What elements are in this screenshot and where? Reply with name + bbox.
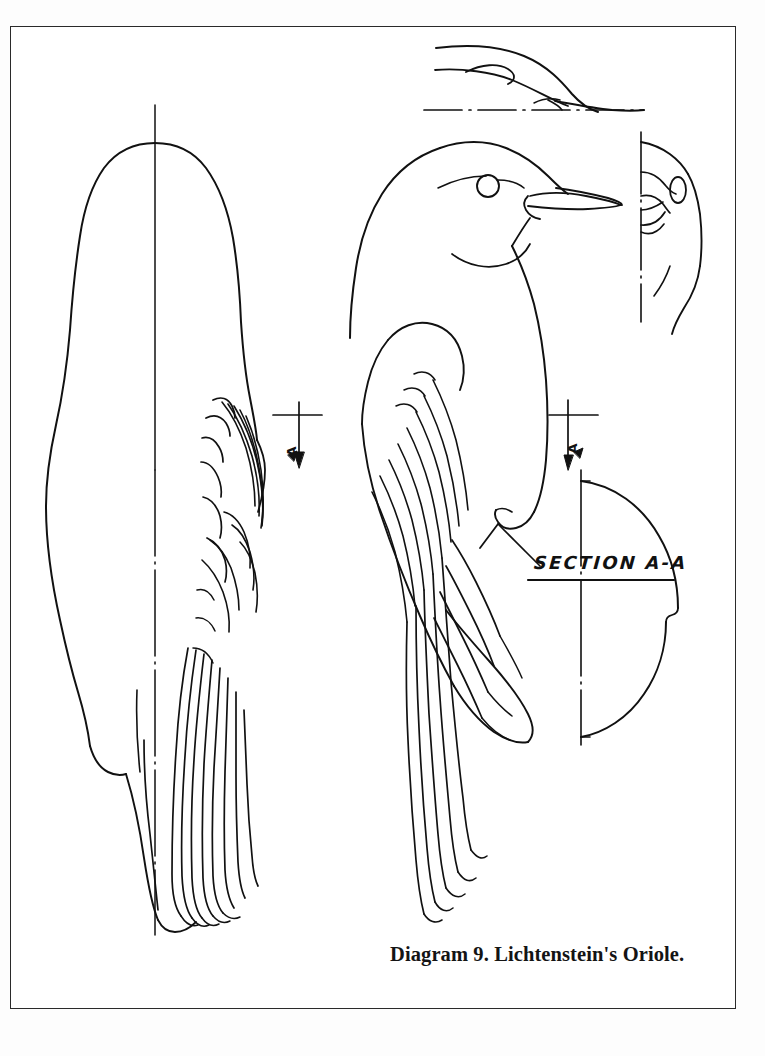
section-mark-right xyxy=(549,400,598,470)
illustration-canvas xyxy=(0,0,765,1056)
body-cross-section-a-a xyxy=(581,470,678,745)
section-mark-right-letter: A xyxy=(565,443,580,453)
head-top-profile-detail xyxy=(424,46,644,112)
head-front-half-detail xyxy=(641,132,702,334)
section-a-a-label: SECTION A-A xyxy=(533,552,688,573)
diagram-caption: Diagram 9. Lichtenstein's Oriole. xyxy=(390,943,684,966)
section-mark-left xyxy=(273,402,322,468)
section-mark-left-letter: A xyxy=(284,446,299,456)
dorsal-top-view xyxy=(46,105,265,935)
page-background: SECTION A-A A A Diagram 9. Lichtenstein'… xyxy=(0,0,765,1056)
